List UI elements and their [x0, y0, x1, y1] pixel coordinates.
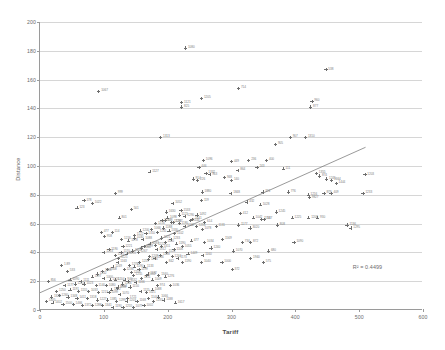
data-point-label: 1190 [115, 306, 121, 309]
data-point-label: 1009 [155, 278, 162, 281]
data-point-label: 1173 [180, 257, 186, 260]
data-point-label: 1299 [119, 300, 126, 303]
data-point-label: 1106 [176, 248, 182, 251]
data-point-label: 1221 [118, 254, 125, 257]
data-point-label: 1630 [169, 211, 176, 214]
data-point-label: 1205 [204, 97, 211, 100]
data-point-label: 1140 [99, 284, 105, 287]
data-point-label: 1255 [129, 252, 136, 255]
data-point-label: 1940 [253, 257, 260, 260]
data-point-label: 1140 [168, 241, 174, 244]
data-point-label: 1021 [149, 291, 156, 294]
data-point-label: 1199 [141, 268, 147, 271]
data-point-label: 1288 [95, 304, 102, 307]
data-point-label: 714 [241, 87, 246, 90]
data-point-label: 1569 [225, 238, 232, 241]
data-point-label: 1070 [236, 249, 243, 252]
data-point-label: 856 [51, 280, 56, 283]
data-point-label: 930 [320, 216, 325, 219]
data-point-label: 446 [201, 166, 206, 169]
data-point-label: 1052 [175, 202, 182, 205]
data-point-label: 905 [278, 143, 283, 146]
data-point-label: 1295 [353, 226, 360, 229]
data-point-label: 1310 [308, 136, 315, 139]
data-point-label: 1402 [55, 301, 62, 304]
data-point-label: 1449 [190, 252, 197, 255]
data-point-label: 1405 [49, 300, 56, 303]
x-tick-label: 600 [419, 314, 428, 320]
data-point-label: 825 [184, 105, 189, 108]
data-point-label: 1080 [188, 46, 195, 49]
data-point-label: 123 [79, 206, 84, 209]
data-point-label: 1155 [164, 219, 170, 222]
data-point-label: 1188 [166, 298, 172, 301]
data-point-label: 243 [259, 166, 264, 169]
data-point-label: 372 [235, 268, 240, 271]
data-point-label: 1617 [178, 301, 185, 304]
data-point-label: 1241 [160, 231, 167, 234]
data-point-label: 1466 [76, 303, 83, 306]
data-point-label: 1197 [95, 275, 101, 278]
data-point-label: 734 [245, 241, 250, 244]
data-point-label: 1168 [139, 300, 145, 303]
data-point-label: 801 [122, 216, 127, 219]
data-point-label: 1102 [177, 232, 183, 235]
data-point-label: 958 [107, 235, 112, 238]
data-point-label: 533 [70, 270, 75, 273]
data-point-label: 1034 [207, 241, 214, 244]
r-squared-annotation: R² = 0.4499 [353, 264, 382, 270]
data-point-label: 872 [253, 241, 258, 244]
data-point-label: 1242 [187, 225, 194, 228]
data-point-label: 907 [293, 136, 298, 139]
data-point-label: 1341 [105, 304, 112, 307]
data-point-label: 1260 [62, 294, 69, 297]
data-point-label: 226 [200, 179, 205, 182]
data-point-label: 1144 [193, 219, 199, 222]
data-point-label: 178 [86, 199, 91, 202]
data-point-label: 119 [204, 199, 209, 202]
data-point-label: 1055 [185, 245, 192, 248]
data-point-label: 1221 [125, 245, 132, 248]
data-point-label: 1340 [161, 274, 168, 277]
x-tick-label: 400 [291, 314, 300, 320]
data-point-label: 1313 [163, 136, 170, 139]
data-point-label: 111 [286, 167, 291, 170]
data-point-label: 1312 [159, 248, 166, 251]
data-point-label: 1077 [136, 306, 143, 309]
x-tick-label: 500 [355, 314, 364, 320]
data-point-label: 1070 [122, 293, 129, 296]
data-point-label: 1266 [125, 283, 132, 286]
data-point-label: 1203 [129, 300, 136, 303]
data-point-label: 3020 [252, 226, 259, 229]
data-point-label: 1000 [224, 261, 231, 264]
y-tick-label: 140 [27, 105, 36, 111]
data-point-label: 948 [227, 176, 232, 179]
x-tick-label: 0 [39, 314, 42, 320]
data-point-label: 1233 [106, 251, 113, 254]
data-point-label: 1222 [78, 283, 85, 286]
y-tick-label: 80 [30, 192, 36, 198]
data-point-label: 400 [269, 159, 274, 162]
data-point-label: 1411 [79, 297, 85, 300]
y-tick-label: 100 [27, 163, 36, 169]
data-point-label: 1310 [148, 232, 155, 235]
data-point-label: 412 [243, 212, 248, 215]
data-point-label: 1090 [296, 241, 303, 244]
data-point-label: 1028 [263, 203, 270, 206]
data-point-label: 1155 [81, 290, 87, 293]
data-point-label: 409 [333, 192, 338, 195]
x-tick-mark [423, 309, 424, 312]
data-point-label: 680 [271, 249, 276, 252]
data-point-label: 501 [134, 208, 139, 211]
data-point-label: 1276 [168, 275, 175, 278]
data-point-label: 808 [280, 223, 285, 226]
data-point-label: 537 [267, 218, 272, 221]
data-point-label: 1.89 [64, 264, 70, 267]
data-point-label: 1216 [158, 222, 165, 225]
plot-area: 020406080100120140160180200 010020030040… [39, 22, 422, 310]
data-point-label: 374 [265, 190, 270, 193]
data-point-label: 1255 [136, 274, 143, 277]
data-point-label: 140 [234, 179, 239, 182]
data-point-label: 1166 [157, 257, 163, 260]
data-point-label: 1078 [205, 228, 212, 231]
